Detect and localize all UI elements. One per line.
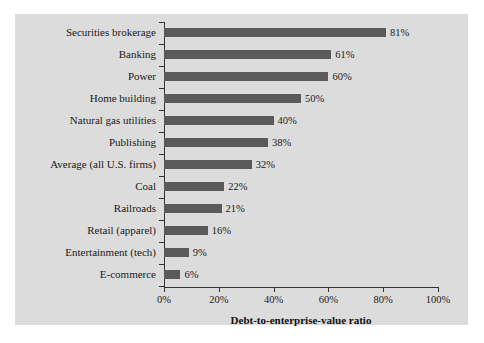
bar-row: Publishing38% <box>164 132 438 154</box>
x-axis-tick <box>164 287 165 292</box>
x-axis-tick <box>383 287 384 292</box>
category-label: Entertainment (tech) <box>65 243 156 262</box>
bar-value-label: 61% <box>335 45 354 64</box>
bar-row: Railroads21% <box>164 198 438 220</box>
y-axis-tick <box>159 220 164 221</box>
bar-row: Power60% <box>164 66 438 88</box>
category-label: Power <box>128 67 156 86</box>
x-axis-tick-label: 40% <box>264 294 283 305</box>
bar-row: Entertainment (tech)9% <box>164 242 438 264</box>
chart-plot-panel: Securities brokerage81%Banking61%Power60… <box>15 14 468 325</box>
category-label: Railroads <box>114 199 156 218</box>
x-axis-line <box>164 287 439 288</box>
bar-value-label: 60% <box>332 67 351 86</box>
bar-row: Coal22% <box>164 176 438 198</box>
bar-value-label: 21% <box>226 199 245 218</box>
bar-value-label: 32% <box>256 155 275 174</box>
category-label: Home building <box>90 89 156 108</box>
bar-row: Banking61% <box>164 44 438 66</box>
y-axis-tick <box>159 242 164 243</box>
chart-plot-area: Securities brokerage81%Banking61%Power60… <box>164 22 438 287</box>
bar <box>164 50 331 59</box>
bar-value-label: 38% <box>272 133 291 152</box>
bar-value-label: 50% <box>305 89 324 108</box>
y-axis-tick <box>159 44 164 45</box>
x-axis-tick <box>219 287 220 292</box>
x-axis-tick <box>328 287 329 292</box>
y-axis-tick <box>159 88 164 89</box>
y-axis-tick <box>159 154 164 155</box>
y-axis-tick <box>159 176 164 177</box>
bar-value-label: 9% <box>193 243 207 262</box>
bar <box>164 138 268 147</box>
bar <box>164 226 208 235</box>
bar <box>164 116 274 125</box>
bar <box>164 28 386 37</box>
bar-value-label: 6% <box>184 265 198 284</box>
bar-row: Retail (apparel)16% <box>164 220 438 242</box>
bar-row: Home building50% <box>164 88 438 110</box>
y-axis-tick <box>159 264 164 265</box>
x-axis-tick-label: 0% <box>157 294 171 305</box>
category-label: Banking <box>119 45 156 64</box>
y-axis-tick <box>159 110 164 111</box>
bar <box>164 270 180 279</box>
bar-value-label: 81% <box>390 23 409 42</box>
x-axis-tick-label: 80% <box>374 294 393 305</box>
category-label: Securities brokerage <box>66 23 156 42</box>
bar <box>164 94 301 103</box>
bar-row: Natural gas utilities40% <box>164 110 438 132</box>
category-label: Retail (apparel) <box>87 221 156 240</box>
y-axis-tick <box>159 132 164 133</box>
bar-value-label: 16% <box>212 221 231 240</box>
y-axis-tick <box>159 66 164 67</box>
category-label: Average (all U.S. firms) <box>50 155 156 174</box>
bar-row: Securities brokerage81% <box>164 22 438 44</box>
x-axis-tick <box>274 287 275 292</box>
y-axis-tick <box>159 198 164 199</box>
x-axis-tick-label: 60% <box>319 294 338 305</box>
chart-figure: Securities brokerage81%Banking61%Power60… <box>0 0 484 343</box>
bar <box>164 182 224 191</box>
bar <box>164 204 222 213</box>
bar-value-label: 22% <box>228 177 247 196</box>
category-label: E-commerce <box>100 265 156 284</box>
bar-value-label: 40% <box>278 111 297 130</box>
bar <box>164 160 252 169</box>
bar <box>164 248 189 257</box>
x-axis-tick-label: 20% <box>209 294 228 305</box>
bar-row: E-commerce6% <box>164 264 438 286</box>
x-axis-tick <box>438 287 439 292</box>
category-label: Coal <box>135 177 156 196</box>
x-axis-title: Debt-to-enterprise-value ratio <box>164 314 438 326</box>
bar <box>164 72 328 81</box>
y-axis-tick <box>159 22 164 23</box>
category-label: Natural gas utilities <box>70 111 156 130</box>
bar-row: Average (all U.S. firms)32% <box>164 154 438 176</box>
category-label: Publishing <box>109 133 156 152</box>
x-axis-tick-label: 100% <box>426 294 451 305</box>
